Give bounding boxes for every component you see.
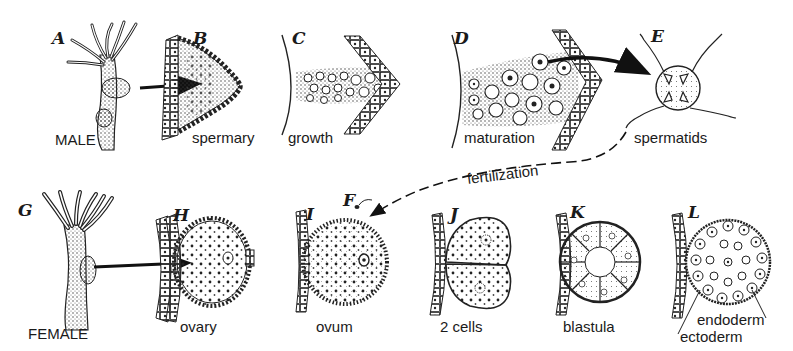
panel-letter-b: B (193, 28, 207, 48)
panel-letter-g: G (18, 200, 33, 220)
caption-two-cells: 2 cells (440, 318, 483, 335)
caption-growth: growth (288, 129, 333, 146)
label-endoderm: endoderm (697, 311, 765, 328)
caption-male: MALE (55, 131, 96, 148)
caption-ovum: ovum (316, 318, 353, 335)
panel-letter-f: F (343, 190, 355, 210)
spermatids-drawing (626, 34, 736, 128)
growth-drawing (282, 35, 400, 135)
two-cell-stage-drawing (430, 213, 511, 315)
panel-letter-i: I (306, 204, 314, 224)
caption-spermary: spermary (192, 129, 255, 146)
sperm-cell-drawing (355, 200, 373, 209)
spermary-drawing (162, 35, 240, 140)
caption-blastula: blastula (563, 318, 615, 335)
label-ectoderm: ectoderm (680, 328, 743, 345)
caption-female: FEMALE (28, 325, 88, 342)
panel-letter-e: E (651, 26, 664, 46)
female-hydra-drawing (44, 192, 112, 330)
panel-letter-l: L (688, 202, 700, 222)
caption-ovary: ovary (180, 318, 217, 335)
ovary-drawing (156, 214, 254, 322)
panel-letter-h: H (173, 205, 189, 225)
ovum-drawing (296, 210, 387, 312)
caption-maturation: maturation (464, 129, 535, 146)
blastula-drawing (556, 213, 640, 315)
panel-letter-j: J (450, 204, 458, 224)
caption-spermatids: spermatids (634, 129, 707, 146)
panel-letter-d: D (454, 28, 469, 48)
diagram-canvas: A MALE B spermary C growth D maturation … (0, 0, 793, 351)
diagram-drawings (0, 0, 793, 351)
panel-letter-c: C (292, 28, 306, 48)
panel-letter-a: A (52, 28, 65, 48)
panel-letter-k: K (570, 202, 585, 222)
